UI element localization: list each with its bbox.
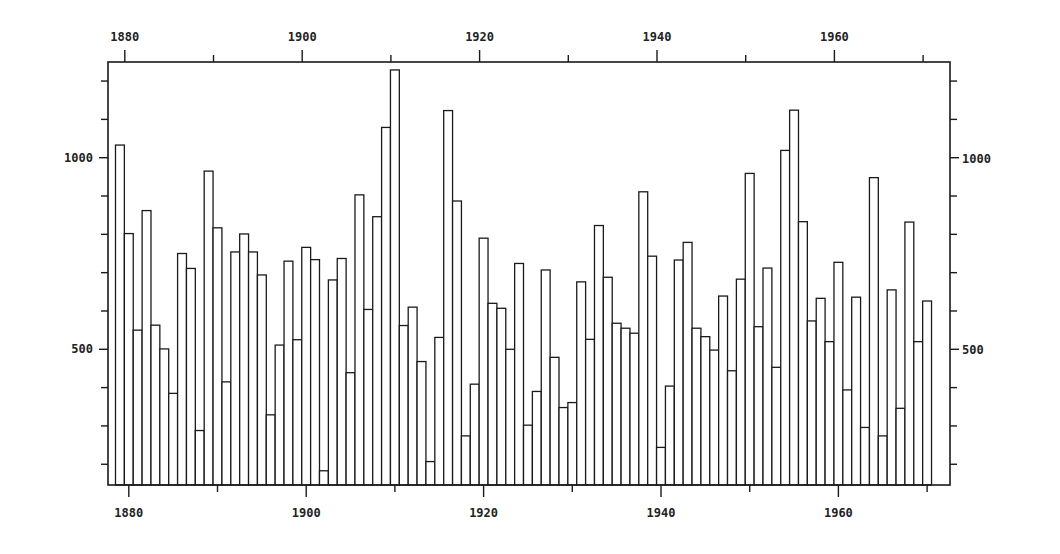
bar-1969 [914, 342, 923, 485]
bar-1967 [896, 408, 905, 485]
histogram-chart: 1880190019201940196018801900192019401960… [0, 0, 1060, 554]
bar-1909 [382, 127, 391, 485]
bar-1929 [559, 408, 568, 485]
bar-1931 [577, 282, 586, 485]
bars-group [116, 70, 932, 485]
bar-1922 [497, 308, 506, 485]
bar-1917 [453, 201, 462, 485]
bar-1925 [524, 425, 533, 485]
bar-1945 [701, 337, 710, 485]
y-label-left-1000: 1000 [64, 151, 93, 165]
bar-1884 [160, 349, 169, 485]
y-label-right-500: 500 [962, 343, 984, 357]
bar-1899 [293, 340, 302, 485]
y-label-right-1000: 1000 [962, 152, 991, 166]
bar-1964 [869, 178, 878, 485]
x-label-top-1880: 1880 [110, 30, 139, 44]
bar-1962 [852, 297, 861, 485]
bar-1959 [825, 342, 834, 485]
bar-1951 [754, 327, 763, 485]
bar-1956 [798, 222, 807, 485]
x-label-bottom-1920: 1920 [469, 506, 498, 520]
bar-1941 [665, 386, 674, 485]
bar-1887 [186, 268, 195, 485]
bar-1957 [807, 321, 816, 485]
bar-1937 [630, 333, 639, 485]
bar-1883 [151, 325, 160, 485]
bar-1903 [328, 280, 337, 485]
bar-1961 [843, 390, 852, 485]
bar-1908 [373, 217, 382, 485]
bar-1889 [204, 171, 213, 485]
bar-1970 [923, 301, 932, 485]
bar-1890 [213, 228, 222, 485]
bar-1944 [692, 328, 701, 485]
bar-1968 [905, 222, 914, 485]
bar-1888 [195, 431, 204, 485]
bar-1881 [133, 330, 142, 485]
bar-1934 [603, 277, 612, 485]
bar-1911 [399, 326, 408, 485]
bar-1938 [639, 192, 648, 485]
bar-1916 [444, 111, 453, 485]
x-label-top-1920: 1920 [465, 30, 494, 44]
bar-1885 [169, 393, 178, 485]
bar-1947 [719, 296, 728, 485]
bar-1886 [178, 254, 187, 486]
bar-1879 [116, 145, 125, 485]
bar-1952 [763, 268, 772, 485]
bar-1940 [657, 447, 666, 485]
bar-1902 [320, 471, 329, 485]
x-label-top-1900: 1900 [288, 30, 317, 44]
bar-1913 [417, 362, 426, 485]
bar-1893 [240, 234, 249, 485]
bar-1900 [302, 247, 311, 485]
bar-1919 [470, 384, 479, 485]
bar-1958 [816, 298, 825, 485]
bar-1932 [586, 339, 595, 485]
bar-1921 [488, 303, 497, 485]
bar-1892 [231, 252, 240, 485]
y-label-left-500: 500 [71, 342, 93, 356]
bar-1914 [426, 462, 435, 485]
bar-1926 [532, 391, 541, 485]
bar-1943 [683, 242, 692, 485]
bar-1901 [311, 260, 320, 485]
bar-1950 [745, 173, 754, 485]
bar-1942 [674, 260, 683, 485]
bar-1915 [435, 337, 444, 485]
bar-1896 [266, 415, 275, 485]
bar-1920 [479, 238, 488, 485]
bar-1935 [612, 323, 621, 485]
bar-1966 [887, 290, 896, 485]
bar-1924 [515, 263, 524, 485]
bar-1907 [364, 309, 373, 485]
bar-1927 [541, 270, 550, 485]
bar-1880 [124, 234, 133, 485]
bar-1948 [728, 371, 737, 485]
x-label-bottom-1960: 1960 [824, 506, 853, 520]
bar-1910 [390, 70, 399, 485]
x-label-top-1960: 1960 [820, 30, 849, 44]
bar-1960 [834, 262, 843, 485]
bar-1912 [408, 307, 417, 485]
bar-1963 [861, 427, 870, 485]
bar-1894 [249, 252, 258, 485]
bar-1918 [461, 436, 470, 485]
bar-1882 [142, 211, 151, 485]
bar-1939 [648, 256, 657, 485]
bar-1953 [772, 367, 781, 485]
bar-1933 [594, 226, 603, 485]
bar-1954 [781, 150, 790, 485]
bar-1928 [550, 357, 559, 485]
bar-1891 [222, 382, 231, 485]
bar-1906 [355, 195, 364, 485]
bar-1936 [621, 328, 630, 485]
bar-1946 [710, 350, 719, 485]
bar-1898 [284, 261, 293, 485]
bar-1897 [275, 345, 284, 485]
bar-1955 [790, 110, 799, 485]
x-label-top-1940: 1940 [643, 30, 672, 44]
bar-1904 [337, 258, 346, 485]
bar-1923 [506, 349, 515, 485]
